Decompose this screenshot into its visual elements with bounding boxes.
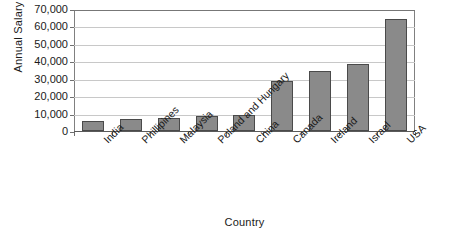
bar-slot <box>377 10 415 131</box>
y-axis-tick-label: 50,000 <box>16 39 68 50</box>
y-axis-tick-label: 0 <box>16 126 68 137</box>
y-axis-tick-label: 20,000 <box>16 91 68 102</box>
bar[interactable] <box>82 121 104 131</box>
bar[interactable] <box>385 19 407 131</box>
bar-slot <box>301 10 339 131</box>
x-axis-tick-labels: IndiaPhillipinesMalaysiaPoland and Hunga… <box>74 137 415 207</box>
y-axis-tick-label: 10,000 <box>16 109 68 120</box>
y-axis-tick-labels: 010,00020,00030,00040,00050,00060,00070,… <box>20 10 72 132</box>
x-axis-title: Country <box>74 216 415 228</box>
x-tick-mark <box>74 132 75 136</box>
bar-slot <box>74 10 112 131</box>
bar-chart: Annual Salary 010,00020,00030,00040,0005… <box>0 0 449 243</box>
y-axis-tick-label: 40,000 <box>16 56 68 67</box>
bar-slot <box>339 10 377 131</box>
y-axis-tick-label: 30,000 <box>16 74 68 85</box>
y-axis-tick-label: 60,000 <box>16 21 68 32</box>
y-axis-tick-label: 70,000 <box>16 4 68 15</box>
bar-slot <box>112 10 150 131</box>
